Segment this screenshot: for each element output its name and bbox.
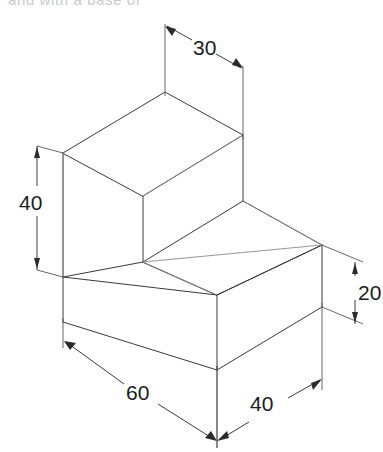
dim60-arrow-right xyxy=(205,431,217,441)
dim40h-label: 40 xyxy=(19,191,42,214)
dim40d-label: 40 xyxy=(250,392,273,415)
dim60-arrow-left xyxy=(64,341,76,350)
lower-rear-diagonal-right xyxy=(243,201,322,245)
dim60-label: 60 xyxy=(126,381,149,404)
dim40h-ext-top xyxy=(37,146,63,153)
object-edges xyxy=(63,92,322,370)
dim60-line-b xyxy=(158,404,215,440)
dim20-label: 20 xyxy=(358,281,381,304)
hidden-construction-edges xyxy=(63,135,322,295)
dim60-line-a xyxy=(66,342,124,384)
lower-rear-cross-edge xyxy=(143,245,322,262)
dimension-20: 20 xyxy=(322,245,381,324)
cropped-caption-text: and with a base of xyxy=(8,0,141,8)
lower-rear-diagonal-left xyxy=(143,262,217,295)
dim40h-arrow-top xyxy=(34,147,40,158)
dim20-arrow-top xyxy=(352,263,358,274)
dimension-60: 60 xyxy=(63,318,217,448)
dim40d-arrow-right xyxy=(311,379,322,390)
lower-bottom-right-edge xyxy=(217,307,322,370)
upper-inner-top-edge xyxy=(143,135,243,196)
upper-top-face xyxy=(63,92,243,196)
dim30-label: 30 xyxy=(193,36,216,59)
dim40h-arrow-bottom xyxy=(34,258,40,269)
dim20-ext-top xyxy=(322,245,363,262)
lower-top-left-edge xyxy=(63,277,217,295)
upper-front-face-lower-edge xyxy=(63,262,143,277)
dim40h-ext-bottom xyxy=(37,270,63,277)
dim30-arrow-right xyxy=(232,58,243,68)
dimension-40-height: 40 xyxy=(19,146,63,277)
lower-bottom-left-edge xyxy=(63,322,217,370)
dimension-40-depth: 40 xyxy=(217,303,322,448)
drawing-canvas: and with a base of xyxy=(0,0,383,452)
dimension-30: 30 xyxy=(165,24,243,139)
isometric-figure: 30 40 20 xyxy=(0,0,383,452)
dim40d-arrow-left xyxy=(217,431,229,441)
lower-top-right-edge xyxy=(217,245,322,295)
dim30-arrow-left xyxy=(165,26,176,36)
